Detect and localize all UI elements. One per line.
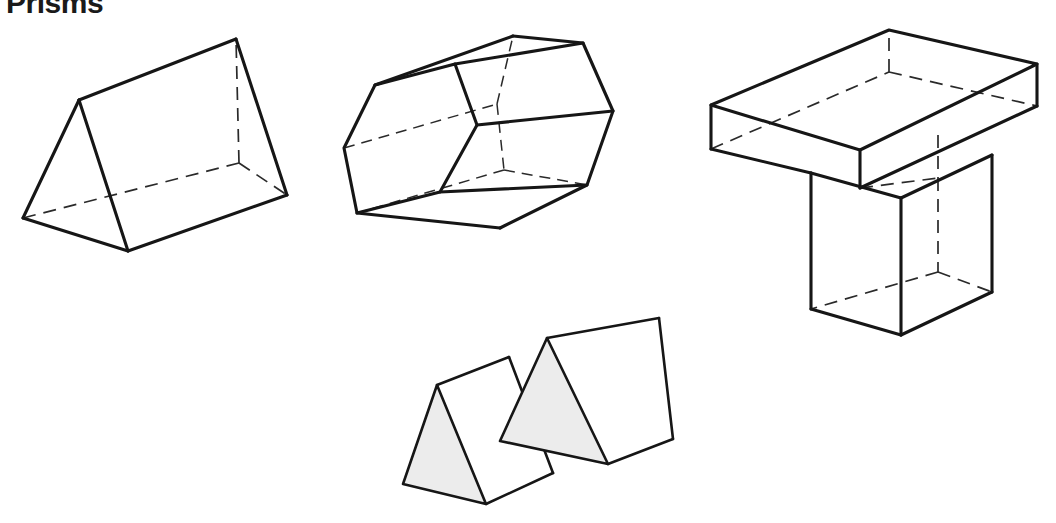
shape-hexagonal-prism	[344, 36, 613, 228]
prisms-figure-page: Prisms	[0, 0, 1056, 523]
t-prism-leg-right-face	[901, 155, 992, 335]
shape-triangular-prism	[23, 39, 287, 251]
figure-canvas	[0, 0, 1056, 523]
shape-t-prism	[711, 30, 1037, 335]
shape-congruent-prism-right	[500, 318, 673, 464]
t-prism-leg-front-face	[811, 173, 901, 335]
